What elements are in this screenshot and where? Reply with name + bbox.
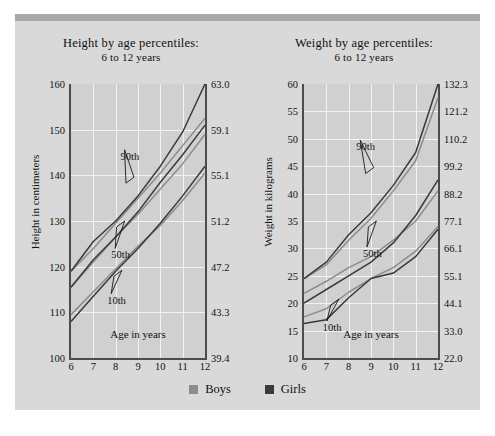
y-tick-label-right: 22.0	[444, 353, 462, 364]
annotation-leader	[367, 221, 376, 247]
annotation-leader	[111, 270, 122, 293]
axis-bottom-weight	[302, 358, 440, 360]
y-tick-label-right: 132.3	[444, 79, 468, 90]
x-tick-label: 9	[368, 361, 373, 372]
y-tick-label-right: 44.1	[444, 298, 462, 309]
chart-title-height: Height by age percentiles: 6 to 12 years	[15, 36, 247, 64]
chart-title-line1: Height by age percentiles:	[63, 36, 199, 50]
y-tick-label-left: 20	[288, 298, 299, 309]
annotation-leaders	[304, 84, 438, 358]
legend: Boys Girls	[15, 382, 480, 397]
y-tick-label-right: 99.2	[444, 161, 462, 172]
x-tick-label: 11	[178, 361, 188, 372]
legend-swatch-girls	[265, 385, 274, 394]
chart-title-line2: 6 to 12 years	[248, 50, 480, 64]
y-tick-label-right: 59.1	[211, 124, 229, 135]
x-tick-label: 11	[411, 361, 421, 372]
annotation-leaders	[71, 84, 205, 358]
figure-panel: Height by age percentiles: 6 to 12 years…	[15, 14, 480, 410]
x-axis-label-weight: Age in years	[304, 328, 438, 340]
y-tick-label-left: 130	[49, 216, 65, 227]
y-tick-label-left: 40	[288, 188, 299, 199]
y-tick-label-right: 51.2	[211, 216, 229, 227]
y-tick-label-right: 63.0	[211, 79, 229, 90]
y-tick-label-left: 160	[49, 79, 65, 90]
x-tick-label: 8	[113, 361, 118, 372]
annotation-leader	[327, 299, 339, 321]
y-axis-label-left-height: Height in centimeters	[29, 155, 41, 250]
x-tick-label: 9	[135, 361, 140, 372]
y-tick-label-left: 60	[288, 79, 299, 90]
plot-area-weight: 67891011121022.01533.02044.12555.13066.1…	[304, 84, 438, 358]
legend-swatch-boys	[189, 385, 198, 394]
x-tick-label: 10	[388, 361, 399, 372]
legend-label-girls: Girls	[281, 382, 306, 397]
y-tick-label-left: 30	[288, 243, 299, 254]
y-tick-label-left: 15	[288, 325, 299, 336]
y-tick-label-right: 33.0	[444, 325, 462, 336]
figure-page: Height by age percentiles: 6 to 12 years…	[0, 0, 495, 436]
legend-label-boys: Boys	[205, 382, 231, 397]
x-tick-label: 7	[91, 361, 96, 372]
y-tick-label-left: 110	[50, 307, 65, 318]
y-tick-label-left: 45	[288, 161, 299, 172]
y-tick-label-left: 55	[288, 106, 299, 117]
x-tick-label: 12	[433, 361, 444, 372]
y-tick-label-right: 55.1	[444, 270, 462, 281]
y-tick-label-left: 25	[288, 270, 299, 281]
x-tick-label: 12	[200, 361, 211, 372]
y-tick-label-right: 110.2	[444, 133, 467, 144]
y-tick-label-left: 150	[49, 124, 65, 135]
legend-item-boys: Boys	[189, 382, 231, 397]
y-tick-label-right: 43.3	[211, 307, 229, 318]
y-tick-label-left: 35	[288, 216, 299, 227]
axis-right-weight	[438, 84, 440, 358]
y-tick-label-right: 39.4	[211, 353, 229, 364]
annotation-leader	[125, 150, 134, 183]
y-tick-label-left: 10	[288, 353, 299, 364]
y-axis-label-left-weight: Weight in kilograms	[262, 157, 274, 247]
y-tick-label-left: 120	[49, 261, 65, 272]
y-tick-label-right: 47.2	[211, 261, 229, 272]
y-tick-label-right: 66.1	[444, 243, 462, 254]
plot-area-height: 678910111210039.411043.312047.213051.214…	[71, 84, 205, 358]
y-tick-label-right: 55.1	[211, 170, 229, 181]
y-tick-label-left: 50	[288, 133, 299, 144]
chart-height-by-age: Height by age percentiles: 6 to 12 years…	[15, 32, 247, 372]
y-tick-label-left: 140	[49, 170, 65, 181]
x-tick-label: 8	[346, 361, 351, 372]
x-tick-label: 10	[155, 361, 166, 372]
chart-title-line2: 6 to 12 years	[15, 50, 247, 64]
axis-right-height	[205, 84, 207, 358]
annotation-leader	[360, 140, 373, 173]
chart-title-line1: Weight by age percentiles:	[295, 36, 433, 50]
axis-bottom-height	[69, 358, 207, 360]
y-tick-label-right: 77.1	[444, 216, 462, 227]
y-tick-label-left: 100	[49, 353, 65, 364]
x-tick-label: 7	[324, 361, 329, 372]
top-strip	[15, 14, 480, 21]
y-tick-label-right: 121.2	[444, 106, 468, 117]
x-tick-label: 6	[68, 361, 73, 372]
chart-weight-by-age: Weight by age percentiles: 6 to 12 years…	[248, 32, 480, 372]
x-tick-label: 6	[301, 361, 306, 372]
legend-item-girls: Girls	[265, 382, 306, 397]
annotation-leader	[115, 221, 124, 248]
x-axis-label-height: Age in years	[71, 328, 205, 340]
chart-title-weight: Weight by age percentiles: 6 to 12 years	[248, 36, 480, 64]
y-tick-label-right: 88.2	[444, 188, 462, 199]
